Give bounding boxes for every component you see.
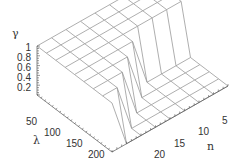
n-tick-label: 10: [198, 126, 210, 137]
tick-mark: [78, 125, 80, 126]
surface-plot: γ 1 0.8 0.6 0.4 0.2 50 100 150 200 λ 5 1…: [0, 0, 242, 168]
lambda-axis-title: λ: [33, 134, 40, 147]
tick-mark: [45, 100, 47, 101]
tick-mark: [97, 140, 99, 141]
tick-mark: [63, 114, 65, 115]
tick-mark: [60, 111, 62, 112]
tick-mark: [48, 103, 50, 104]
mesh-line: [139, 0, 214, 94]
n-tick-label: 20: [154, 149, 166, 160]
tick-mark: [75, 123, 77, 124]
tick-mark: [86, 131, 88, 132]
tick-mark: [90, 134, 92, 135]
mesh-line: [84, 57, 200, 98]
z-axis-title: γ: [12, 27, 19, 40]
tick-mark: [105, 145, 107, 146]
n-tick-label: 5: [222, 115, 228, 126]
tick-mark: [56, 108, 58, 109]
lambda-tick-label: 50: [26, 116, 38, 127]
lambda-tick-label: 100: [44, 127, 61, 138]
surface-wireframe: [37, 0, 228, 144]
tick-mark: [93, 137, 95, 138]
n-tick-label: 15: [174, 138, 186, 149]
n-axis-title: n: [207, 140, 214, 153]
tick-mark: [41, 97, 43, 98]
tick-mark: [108, 148, 110, 149]
mesh-line: [37, 0, 153, 46]
tick-mark: [101, 142, 103, 143]
tick-mark: [71, 120, 73, 121]
lambda-tick-label: 150: [66, 138, 83, 149]
tick-mark: [67, 117, 69, 118]
mesh-line: [37, 46, 112, 103]
tick-mark: [52, 105, 54, 106]
z-tick-label: 0.2: [17, 82, 31, 93]
tick-mark: [82, 128, 84, 129]
lambda-tick-label: 200: [88, 149, 105, 160]
mesh-line: [153, 0, 228, 86]
